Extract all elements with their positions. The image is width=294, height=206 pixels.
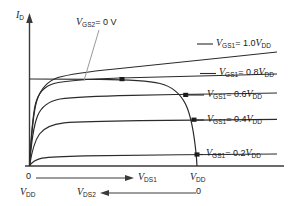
load-curve-vgs2-0v: [30, 79, 198, 166]
vds2-axis-label: VDS2: [77, 187, 96, 197]
mosfet-iv-characteristic-figure: ID VGS2= 0 V VGS1= 1.0VDD VGS1= 0.8VDD V…: [0, 0, 294, 206]
curve-label-vgs1-1p0: VGS1= 1.0VDD: [216, 38, 271, 48]
intersection-markers: [120, 77, 200, 157]
vds1-end-label: VDD: [190, 172, 206, 182]
vds2-direction-arrow: [100, 190, 196, 196]
curve-label-vgs1-0p4: VGS1= 0.4VDD: [207, 114, 262, 124]
curve-label-vgs1-0p2: VGS1= 0.2VDD: [206, 148, 261, 158]
load-curve-label: VGS2= 0 V: [76, 17, 116, 27]
vgs2-leader-line: [84, 30, 99, 81]
vds1-axis-label: VDS1: [138, 172, 157, 182]
curve-vgs1-0p4: [30, 119, 278, 166]
vds2-end-label: 0: [196, 187, 201, 196]
vds2-start-label: VDD: [20, 187, 36, 197]
curve-label-vgs1-0p8: VGS1= 0.8VDD: [219, 67, 274, 77]
vds1-start-label: 0: [26, 172, 31, 181]
vds1-direction-arrow: [36, 175, 134, 181]
y-axis-label: ID: [16, 10, 24, 20]
curve-label-vgs1-0p6: VGS1= 0.6VDD: [207, 89, 262, 99]
